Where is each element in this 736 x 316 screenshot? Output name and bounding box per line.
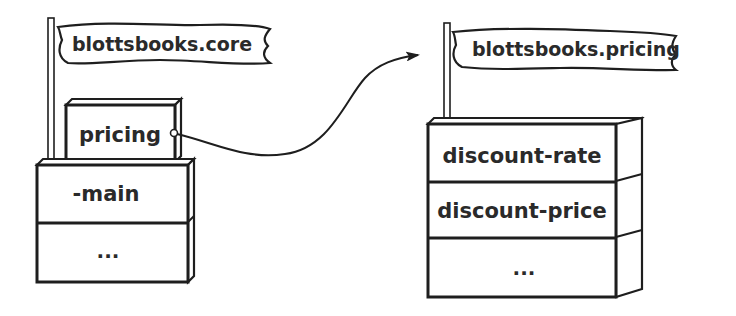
stack-item-ellipsis-core: ...	[97, 239, 120, 263]
stack-item-ellipsis-pricing: ...	[513, 256, 536, 280]
stack-item-discount-price: discount-price	[437, 199, 607, 223]
flag-pole-core	[48, 18, 54, 163]
stack-pricing: discount-rate discount-price ...	[428, 118, 642, 297]
box-label-pricing: pricing	[79, 123, 161, 147]
stack-core: -main ...	[37, 159, 194, 282]
flag-pole-pricing	[444, 23, 450, 123]
connector-port	[171, 130, 178, 137]
flag-label-core: blottsbooks.core	[72, 33, 252, 55]
box-pricing-ref: pricing	[66, 99, 181, 162]
namespace-pricing: blottsbooks.pricing discount-rate discou…	[428, 23, 680, 297]
dependency-arrow	[177, 55, 418, 155]
flag-label-pricing: blottsbooks.pricing	[472, 38, 680, 60]
diagram-canvas: blottsbooks.core pricing -main ... blott…	[0, 0, 736, 316]
stack-item-discount-rate: discount-rate	[442, 144, 601, 168]
stack-item-main: -main	[73, 182, 140, 206]
